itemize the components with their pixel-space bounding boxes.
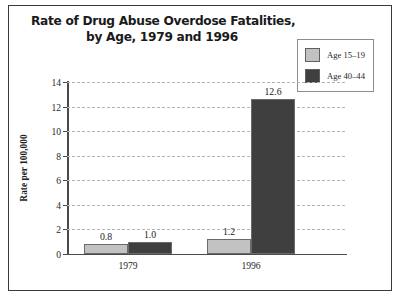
gridline xyxy=(67,82,345,83)
x-axis-category-label-1979: 1979 xyxy=(118,260,137,271)
y-axis-tick-label: 0 xyxy=(37,249,61,260)
legend-item-age-15-19: Age 15–19 xyxy=(305,48,365,62)
y-axis-tick-label: 10 xyxy=(37,126,61,137)
bar-value-label: 1.2 xyxy=(223,226,235,237)
y-axis-tick-mark xyxy=(63,82,67,83)
x-axis-category-label-1996: 1996 xyxy=(241,260,260,271)
y-axis-tick-mark xyxy=(63,107,67,108)
y-axis-tick-label: 8 xyxy=(37,150,61,161)
legend-label-age-15-19: Age 15–19 xyxy=(327,50,365,60)
chart-title: Rate of Drug Abuse Overdose Fatalities, … xyxy=(31,14,293,45)
bar-1979-age-40-44 xyxy=(128,242,172,254)
y-axis-tick-label: 6 xyxy=(37,175,61,186)
y-axis-title-text: Rate per 100,000 xyxy=(19,134,29,201)
y-axis-title: Rate per 100,000 xyxy=(17,82,31,254)
y-axis-tick-mark xyxy=(63,205,67,206)
y-axis-tick-mark xyxy=(63,180,67,181)
bar-value-label: 1.0 xyxy=(144,229,156,240)
y-axis-tick-mark xyxy=(63,131,67,132)
legend-label-age-40-44: Age 40–44 xyxy=(327,71,365,81)
y-axis-tick-label: 12 xyxy=(37,101,61,112)
bar-value-label: 0.8 xyxy=(100,231,112,242)
bar-value-label: 12.6 xyxy=(264,86,281,97)
bar-1996-age-40-44 xyxy=(251,99,295,254)
y-axis-tick-mark xyxy=(63,229,67,230)
y-axis-tick-labels: 02468101214 xyxy=(35,82,61,254)
gridline xyxy=(67,180,345,181)
gridline xyxy=(67,205,345,206)
y-axis-tick-mark xyxy=(63,156,67,157)
y-axis-tick-mark xyxy=(63,254,67,255)
gridline xyxy=(67,156,345,157)
chart-title-line-2: by Age, 1979 and 1996 xyxy=(31,30,293,46)
plot-area: 0.81.01.212.6 xyxy=(67,82,345,254)
y-axis-tick-label: 2 xyxy=(37,224,61,235)
bar-1979-age-15-19 xyxy=(84,244,128,254)
legend-swatch-age-40-44 xyxy=(305,69,320,83)
bar-1996-age-15-19 xyxy=(207,239,251,254)
y-axis-tick-label: 14 xyxy=(37,77,61,88)
gridline xyxy=(67,107,345,108)
legend-item-age-40-44: Age 40–44 xyxy=(305,69,365,83)
chart-figure: Rate of Drug Abuse Overdose Fatalities, … xyxy=(8,5,392,291)
chart-title-line-1: Rate of Drug Abuse Overdose Fatalities, xyxy=(31,14,293,30)
y-axis-tick-label: 4 xyxy=(37,199,61,210)
legend-swatch-age-15-19 xyxy=(305,48,320,62)
gridline xyxy=(67,131,345,132)
